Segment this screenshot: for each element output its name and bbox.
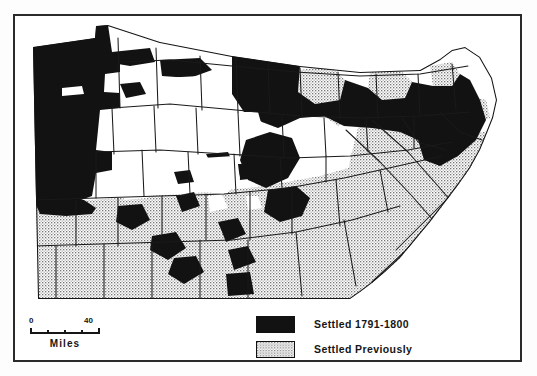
scale-tick-4 <box>98 328 100 334</box>
legend-label-settled-1791-1800: Settled 1791-1800 <box>314 318 409 330</box>
scale-tick-2 <box>64 330 66 334</box>
legend-item-settled-previously: Settled Previously <box>256 338 456 360</box>
map-legend: Settled 1791-1800 Settled Previously <box>256 313 456 363</box>
legend-swatch-stipple-gray <box>256 341 295 358</box>
scale-label-max: 40 <box>84 316 93 325</box>
scale-tick-0 <box>30 328 32 334</box>
legend-item-settled-1791-1800: Settled 1791-1800 <box>256 313 456 335</box>
scale-tick-1 <box>47 330 49 334</box>
scale-units-label: Miles <box>28 338 102 349</box>
legend-label-settled-previously: Settled Previously <box>314 343 412 355</box>
scale-tick-labels: 0 40 <box>28 316 114 327</box>
legend-swatch-solid-black <box>256 316 295 333</box>
map-scale-bar: 0 40 Miles <box>28 316 114 349</box>
scale-ruler <box>30 327 100 336</box>
scale-label-min: 0 <box>29 316 33 325</box>
scale-tick-3 <box>81 330 83 334</box>
figure-panel: Settled 1791-1800 Settled Previously 0 4… <box>0 0 537 376</box>
